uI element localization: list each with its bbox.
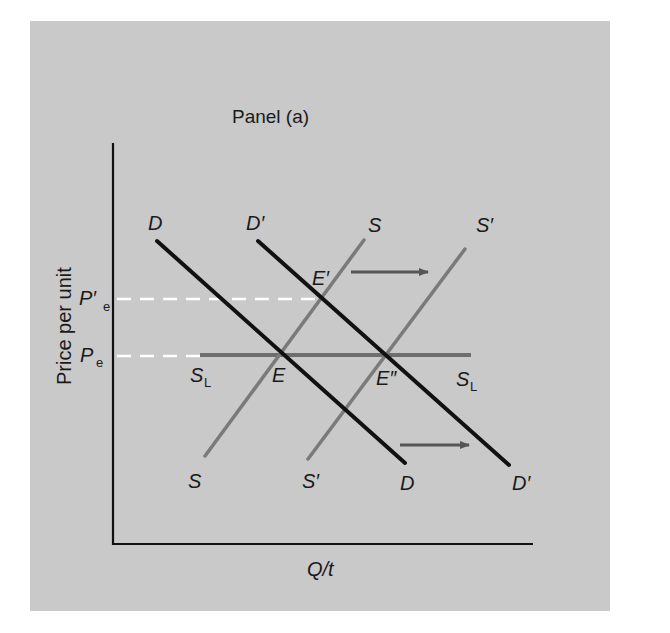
label-d-prime-top: D′ bbox=[246, 212, 265, 234]
label-e-prime: E′ bbox=[312, 267, 330, 289]
label-d-bottom: D bbox=[400, 472, 414, 494]
y-axis-label: Price per unit bbox=[53, 267, 75, 385]
label-d-top: D bbox=[148, 212, 162, 234]
svg-text:e: e bbox=[103, 299, 110, 314]
label-sl-right: S L bbox=[456, 368, 477, 394]
svg-text:S: S bbox=[456, 368, 470, 390]
label-s-prime-bottom: S′ bbox=[302, 470, 320, 492]
svg-text:P: P bbox=[80, 344, 94, 366]
label-sl-left: S L bbox=[190, 364, 211, 390]
label-d-prime-bottom: D′ bbox=[512, 472, 531, 494]
svg-text:L: L bbox=[470, 379, 477, 394]
label-e: E bbox=[272, 364, 286, 386]
svg-text:L: L bbox=[204, 375, 211, 390]
svg-text:S: S bbox=[190, 364, 204, 386]
supply-curve-s bbox=[205, 240, 364, 456]
panel-title: Panel (a) bbox=[232, 106, 309, 127]
label-s-prime-top: S′ bbox=[476, 214, 494, 236]
label-s-bottom: S bbox=[188, 470, 202, 492]
label-s-top: S bbox=[368, 214, 382, 236]
svg-text:P′: P′ bbox=[79, 287, 97, 309]
price-label-p-e: P e bbox=[80, 344, 103, 370]
demand-curve-d bbox=[157, 241, 405, 463]
price-label-p-e-prime: P′ e bbox=[79, 287, 110, 314]
x-axis-label: Q/t bbox=[307, 558, 335, 580]
svg-text:e: e bbox=[96, 355, 103, 370]
supply-demand-diagram: Panel (a) Price per unit Q/t P′ e P e D … bbox=[0, 0, 670, 633]
label-e-double-prime: E″ bbox=[376, 367, 397, 389]
